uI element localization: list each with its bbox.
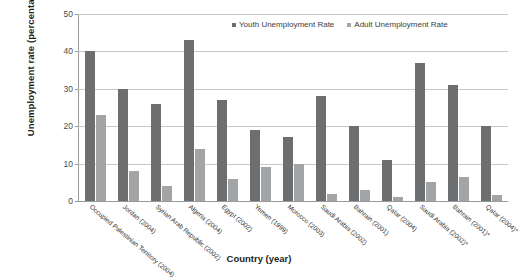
y-tick-mark bbox=[75, 89, 78, 90]
bar-group bbox=[112, 14, 145, 201]
y-tick-label: 20 bbox=[64, 121, 73, 131]
plot-area: 01020304050 bbox=[78, 14, 508, 201]
bar-group bbox=[310, 14, 343, 201]
x-tick-label: Qatar (2004) bbox=[386, 203, 419, 232]
bar-youth bbox=[382, 160, 392, 201]
bar-youth bbox=[349, 126, 359, 201]
bar-youth bbox=[448, 85, 458, 201]
y-tick-mark bbox=[75, 164, 78, 165]
bar-youth bbox=[85, 51, 95, 201]
legend-swatch-adult-icon bbox=[347, 23, 351, 27]
chart-legend: Youth Unemployment Rate Adult Unemployme… bbox=[232, 20, 448, 29]
bar-youth bbox=[316, 96, 326, 201]
x-tick-label: Qatar (2004)* bbox=[485, 203, 520, 234]
bar-youth bbox=[118, 89, 128, 201]
bar-adult bbox=[327, 194, 337, 201]
bar-youth bbox=[481, 126, 491, 201]
y-tick-label: 0 bbox=[68, 196, 73, 206]
bar-youth bbox=[283, 137, 293, 201]
x-tick-label: Yemen (1999) bbox=[253, 203, 289, 235]
bar-adult bbox=[195, 149, 205, 201]
y-tick-label: 30 bbox=[64, 84, 73, 94]
bar-adult bbox=[426, 182, 436, 201]
bar-adult bbox=[360, 190, 370, 201]
y-tick-mark bbox=[75, 14, 78, 15]
y-tick-label: 40 bbox=[64, 46, 73, 56]
y-tick-label: 50 bbox=[64, 9, 73, 19]
bar-youth bbox=[217, 100, 227, 201]
bar-adult bbox=[228, 179, 238, 201]
bar-youth bbox=[184, 40, 194, 201]
bar-adult bbox=[294, 164, 304, 201]
bar-adult bbox=[459, 177, 469, 201]
y-tick-mark bbox=[75, 51, 78, 52]
legend-item-adult: Adult Unemployment Rate bbox=[347, 20, 447, 29]
y-tick-label: 10 bbox=[64, 159, 73, 169]
legend-swatch-youth-icon bbox=[232, 23, 236, 27]
x-tick-label: Algeria (2004) bbox=[187, 203, 223, 235]
y-tick-mark bbox=[75, 126, 78, 127]
bar-group bbox=[79, 14, 112, 201]
bar-adult bbox=[393, 197, 403, 201]
bar-adult bbox=[261, 167, 271, 201]
bars-layer bbox=[79, 14, 508, 201]
x-tick-label: Jordan (2004) bbox=[121, 203, 157, 235]
bar-group bbox=[376, 14, 409, 201]
bar-group bbox=[409, 14, 442, 201]
bar-group bbox=[211, 14, 244, 201]
gridline bbox=[78, 201, 508, 202]
bar-youth bbox=[415, 63, 425, 201]
bar-youth bbox=[250, 130, 260, 201]
bar-adult bbox=[492, 195, 502, 201]
y-axis-title: Unemployment rate (percentage) bbox=[25, 0, 36, 151]
x-tick-label: Egypt (2002) bbox=[220, 203, 253, 233]
bar-group bbox=[145, 14, 178, 201]
bar-group bbox=[475, 14, 508, 201]
bar-group bbox=[442, 14, 475, 201]
legend-label-youth: Youth Unemployment Rate bbox=[239, 20, 334, 29]
bar-adult bbox=[162, 186, 172, 201]
legend-label-adult: Adult Unemployment Rate bbox=[354, 20, 447, 29]
bar-group bbox=[178, 14, 211, 201]
x-axis-title: Country (year) bbox=[0, 253, 518, 264]
bar-adult bbox=[96, 115, 106, 201]
bar-group bbox=[244, 14, 277, 201]
bar-group bbox=[277, 14, 310, 201]
legend-item-youth: Youth Unemployment Rate bbox=[232, 20, 334, 29]
y-tick-mark bbox=[75, 201, 78, 202]
bar-group bbox=[343, 14, 376, 201]
bar-youth bbox=[151, 104, 161, 201]
bar-adult bbox=[129, 171, 139, 201]
